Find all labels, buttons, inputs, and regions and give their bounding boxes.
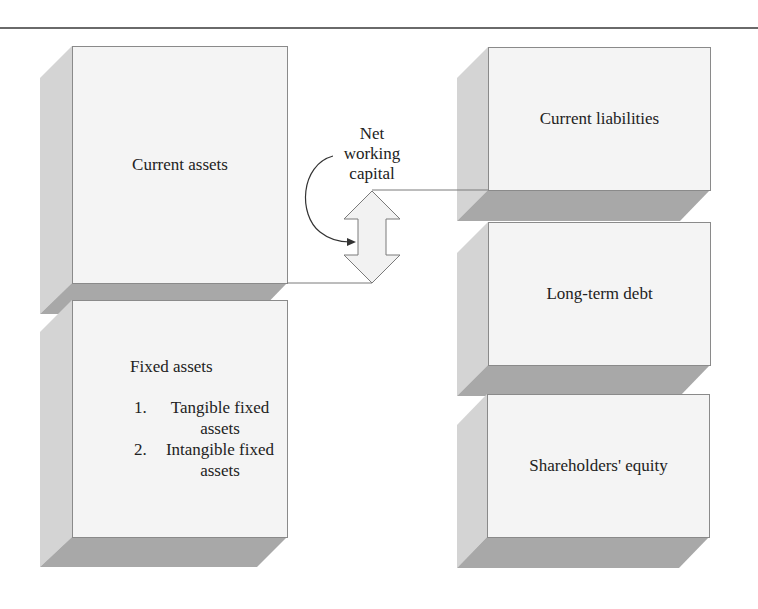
curved-arrow-icon: [305, 156, 356, 246]
connector-graphics: [0, 0, 758, 609]
double-arrow-icon: [344, 191, 400, 283]
